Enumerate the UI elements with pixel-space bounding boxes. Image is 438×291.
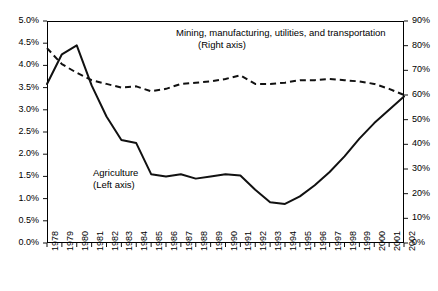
- plot-area: [47, 21, 404, 243]
- left-axis-tick-label: 2.0%: [0, 149, 39, 158]
- left-axis-tick-label: 4.0%: [0, 60, 39, 69]
- x-axis-tick-label: 1994: [289, 231, 298, 251]
- chart-container: 0.0%0.5%1.0%1.5%2.0%2.5%3.0%3.5%4.0%4.5%…: [0, 0, 438, 291]
- left-axis-tick-label: 0.0%: [0, 238, 39, 247]
- right-axis-tick-label: 70%: [412, 65, 430, 74]
- x-axis-tick-label: 2002: [408, 231, 417, 251]
- annotation-mining-line1: Mining, manufacturing, utilities, and tr…: [176, 27, 386, 38]
- x-axis-tick-label: 1979: [66, 231, 75, 251]
- x-axis-tick-label: 1981: [96, 231, 105, 251]
- annotation-agriculture-line2: (Left axis): [93, 179, 138, 191]
- left-axis-tick-label: 5.0%: [0, 16, 39, 25]
- right-axis-tick-label: 90%: [412, 16, 430, 25]
- x-axis-tick-label: 1993: [274, 231, 283, 251]
- x-axis-tick-label: 1995: [304, 231, 313, 251]
- right-axis-ticks: [404, 21, 408, 243]
- x-axis-tick-label: 1998: [349, 231, 358, 251]
- x-axis-tick-label: 1989: [215, 231, 224, 251]
- right-axis-tick-label: 80%: [412, 41, 430, 50]
- x-axis-tick-label: 2001: [393, 231, 402, 251]
- left-axis-tick-label: 1.0%: [0, 194, 39, 203]
- left-axis-tick-label: 3.0%: [0, 105, 39, 114]
- annotation-mining-line2: (Right axis): [198, 39, 386, 51]
- x-axis-tick-label: 1990: [230, 231, 239, 251]
- x-axis-tick-label: 1982: [111, 231, 120, 251]
- right-axis-tick-label: 20%: [412, 189, 430, 198]
- x-axis-tick-label: 1991: [244, 231, 253, 251]
- annotation-agriculture-line1: Agriculture: [93, 167, 138, 178]
- right-axis-tick-label: 40%: [412, 139, 430, 148]
- x-axis-tick-label: 1978: [51, 231, 60, 251]
- left-axis-tick-label: 2.5%: [0, 127, 39, 136]
- x-axis-tick-label: 1997: [334, 231, 343, 251]
- left-axis-tick-label: 1.5%: [0, 171, 39, 180]
- left-axis-tick-label: 0.5%: [0, 216, 39, 225]
- x-axis-tick-label: 1983: [125, 231, 134, 251]
- x-axis-tick-label: 1999: [363, 231, 372, 251]
- right-axis-tick-label: 10%: [412, 213, 430, 222]
- x-axis-tick-label: 1992: [259, 231, 268, 251]
- x-axis-tick-label: 1984: [140, 231, 149, 251]
- right-axis-tick-label: 60%: [412, 90, 430, 99]
- x-axis-tick-label: 1988: [200, 231, 209, 251]
- x-axis-tick-label: 1996: [319, 231, 328, 251]
- right-axis-tick-label: 30%: [412, 164, 430, 173]
- annotation-agriculture: Agriculture (Left axis): [93, 167, 138, 191]
- left-axis-tick-label: 3.5%: [0, 83, 39, 92]
- right-axis-tick-label: 50%: [412, 115, 430, 124]
- x-axis-tick-label: 1986: [170, 231, 179, 251]
- x-axis-tick-label: 1987: [185, 231, 194, 251]
- x-axis-tick-label: 1985: [155, 231, 164, 251]
- left-axis-tick-label: 4.5%: [0, 38, 39, 47]
- annotation-mining: Mining, manufacturing, utilities, and tr…: [176, 27, 386, 51]
- x-axis-tick-label: 2000: [378, 231, 387, 251]
- x-axis-tick-label: 1980: [81, 231, 90, 251]
